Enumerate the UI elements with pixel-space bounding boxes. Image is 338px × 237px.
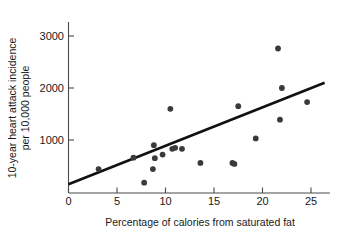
data-point bbox=[235, 103, 241, 109]
data-point bbox=[231, 161, 237, 167]
data-point bbox=[151, 142, 157, 148]
data-point bbox=[277, 117, 283, 123]
data-point bbox=[179, 146, 185, 152]
x-tick-label-0: 0 bbox=[65, 195, 71, 207]
data-point bbox=[167, 106, 173, 112]
x-tick-label-10: 10 bbox=[159, 195, 171, 207]
y-tick-label-2000: 2000 bbox=[40, 82, 64, 94]
data-point bbox=[172, 145, 178, 151]
trend-line bbox=[69, 83, 325, 184]
data-point bbox=[253, 136, 259, 142]
y-tick-label-3000: 3000 bbox=[40, 30, 64, 42]
data-point bbox=[131, 155, 137, 161]
y-axis-title-line2: per 10,000 people bbox=[19, 66, 31, 151]
x-tick-label-5: 5 bbox=[114, 195, 120, 207]
x-tick-label-20: 20 bbox=[256, 195, 268, 207]
y-tick-label-1000: 1000 bbox=[40, 134, 64, 146]
chart-figure: 3000 2000 1000 0 5 10 15 20 25 Percentag… bbox=[0, 0, 338, 237]
x-tick-label-15: 15 bbox=[208, 195, 220, 207]
data-point bbox=[160, 152, 166, 158]
scatter-plot: 3000 2000 1000 0 5 10 15 20 25 Percentag… bbox=[0, 0, 338, 237]
data-point bbox=[150, 166, 156, 172]
x-tick-label-25: 25 bbox=[305, 195, 317, 207]
y-axis-title-line1: 10-year heart attack incidence bbox=[6, 38, 18, 179]
data-point bbox=[279, 85, 285, 91]
data-point bbox=[141, 180, 147, 186]
data-point bbox=[152, 155, 158, 161]
data-point bbox=[304, 99, 310, 105]
x-axis-title: Percentage of calories from saturated fa… bbox=[105, 216, 295, 228]
data-point bbox=[96, 166, 102, 172]
data-point bbox=[275, 46, 281, 52]
data-point bbox=[198, 160, 204, 166]
data-points-group bbox=[96, 46, 310, 186]
